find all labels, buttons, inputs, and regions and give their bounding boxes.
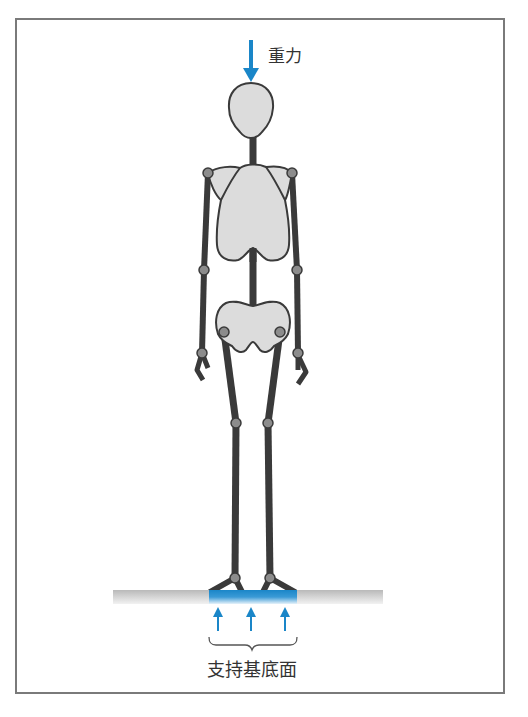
- right-hip-joint: [275, 327, 285, 337]
- left-shoulder-joint: [203, 168, 213, 178]
- brace: [209, 637, 297, 650]
- left-knee-joint: [231, 418, 241, 428]
- right-wrist-joint: [293, 348, 303, 358]
- posture-diagram: 重力: [0, 0, 528, 717]
- right-shoulder-joint: [287, 168, 297, 178]
- right-knee-joint: [263, 418, 273, 428]
- gravity-label: 重力: [268, 46, 302, 66]
- right-elbow-joint: [292, 265, 302, 275]
- base-of-support-area: [209, 590, 297, 604]
- ribcage: [208, 164, 292, 260]
- support-arrows: [213, 607, 290, 631]
- gravity-arrow: [243, 40, 259, 82]
- left-ankle-joint: [230, 573, 240, 583]
- head: [229, 83, 273, 138]
- left-elbow-joint: [199, 265, 209, 275]
- left-hip-joint: [219, 327, 229, 337]
- support-arrow: [213, 607, 223, 631]
- support-arrow: [246, 607, 256, 631]
- base-of-support-label: 支持基底面: [207, 659, 297, 680]
- left-leg: [224, 332, 236, 578]
- left-wrist-joint: [197, 348, 207, 358]
- right-leg: [268, 332, 280, 578]
- support-arrow: [280, 607, 290, 631]
- right-ankle-joint: [265, 573, 275, 583]
